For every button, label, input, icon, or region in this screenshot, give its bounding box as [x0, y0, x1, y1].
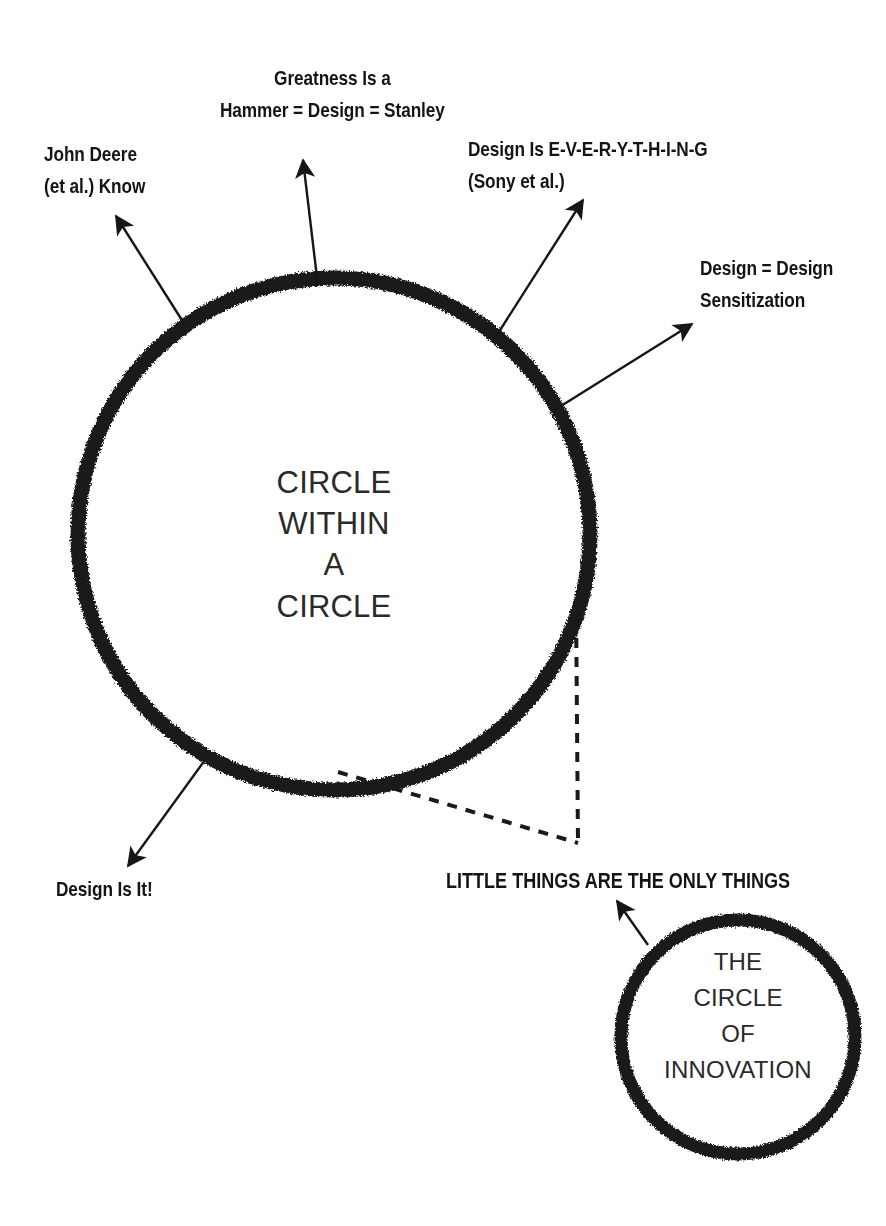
annotation-little-things: LITTLE THINGS ARE THE ONLY THINGS [446, 864, 866, 897]
annotation-greatness-line-1: Greatness Is a [220, 62, 445, 94]
arrow-design-sensitization [553, 324, 692, 411]
main-circle-line-4: CIRCLE [234, 586, 434, 627]
annotation-greatness-hammer: Greatness Is a Hammer = Design = Stanley [220, 62, 494, 126]
annotation-john-deere-line-2: (et al.) Know [44, 170, 145, 202]
small-circle-line-2: CIRCLE [638, 980, 838, 1016]
small-circle-label: THE CIRCLE OF INNOVATION [638, 944, 838, 1088]
annotation-design-is-it-line-1: Design Is It! [56, 873, 153, 905]
arrow-design-is-everything [495, 200, 583, 338]
main-circle-line-3: A [234, 544, 434, 585]
callout-dashed-lines [338, 600, 578, 843]
arrow-john-deere [116, 216, 185, 325]
arrow-design-is-it [128, 760, 205, 866]
arrow-little-things [617, 901, 648, 945]
arrow-greatness-hammer [303, 160, 318, 286]
annotation-everything-line-1: Design Is E-V-E-R-Y-T-H-I-N-G [468, 133, 708, 165]
small-circle-line-4: INNOVATION [638, 1052, 838, 1088]
annotation-sensitization-line-1: Design = Design [700, 252, 833, 284]
diagram-canvas: John Deere (et al.) Know Greatness Is a … [0, 0, 886, 1226]
main-circle-label: CIRCLE WITHIN A CIRCLE [234, 462, 434, 627]
annotation-everything-line-2: (Sony et al.) [468, 165, 708, 197]
annotation-john-deere-line-1: John Deere [44, 138, 145, 170]
small-circle-line-1: THE [638, 944, 838, 980]
annotation-little-things-label: LITTLE THINGS ARE THE ONLY THINGS [446, 864, 790, 897]
annotation-design-is-everything: Design Is E-V-E-R-Y-T-H-I-N-G (Sony et a… [468, 133, 760, 197]
annotation-john-deere: John Deere (et al.) Know [44, 138, 168, 202]
annotation-sensitization-line-2: Sensitization [700, 284, 833, 316]
annotation-design-is-it: Design Is It! [56, 873, 174, 905]
annotation-greatness-line-2: Hammer = Design = Stanley [220, 94, 445, 126]
main-circle-line-2: WITHIN [234, 503, 434, 544]
small-circle-line-3: OF [638, 1016, 838, 1052]
main-circle-line-1: CIRCLE [234, 462, 434, 503]
annotation-design-sensitization: Design = Design Sensitization [700, 252, 862, 316]
